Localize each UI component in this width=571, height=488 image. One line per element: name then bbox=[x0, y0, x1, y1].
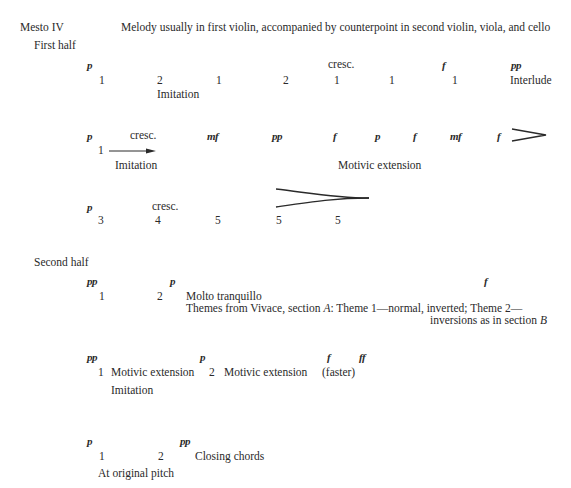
dynamic-marking: pp bbox=[87, 276, 97, 287]
technique-label-motivic-extension: Motivic extension bbox=[338, 160, 421, 172]
dynamic-marking: p bbox=[87, 60, 92, 71]
technique-label-imitation: Imitation bbox=[157, 89, 199, 101]
technique-label-imitation: Imitation bbox=[115, 160, 157, 172]
dynamic-marking: ff bbox=[359, 352, 365, 363]
tempo-marking: Molto tranquillo bbox=[186, 291, 262, 303]
section-reference: B bbox=[540, 314, 547, 326]
dynamic-marking: p bbox=[87, 131, 92, 142]
dynamic-marking: mf bbox=[207, 131, 218, 142]
dynamic-marking: f bbox=[327, 352, 330, 363]
movement-title: Mesto IV bbox=[20, 22, 64, 34]
dynamic-marking: pp bbox=[272, 131, 282, 142]
theme-number: 1 bbox=[98, 145, 104, 157]
dynamic-marking: pp bbox=[87, 352, 97, 363]
dynamic-marking: f bbox=[333, 131, 336, 142]
note-text: inversions as in section bbox=[430, 314, 540, 326]
tempo-note-faster: (faster) bbox=[322, 367, 355, 379]
themes-note-line2: inversions as in section B bbox=[430, 315, 547, 327]
theme-number: 2 bbox=[209, 367, 215, 379]
dynamic-marking: f bbox=[484, 276, 487, 287]
dynamic-marking: p bbox=[170, 276, 175, 287]
theme-number: 1 bbox=[216, 75, 222, 87]
section-label-closing-chords: Closing chords bbox=[195, 451, 264, 463]
dynamic-marking: f bbox=[497, 131, 500, 142]
technique-label-motivic-extension: Motivic extension bbox=[224, 367, 307, 379]
theme-number: 2 bbox=[158, 451, 164, 463]
theme-number: 3 bbox=[98, 215, 104, 227]
dynamic-marking: p bbox=[87, 202, 92, 213]
theme-number: 1 bbox=[98, 367, 104, 379]
dynamic-marking: cresc. bbox=[328, 59, 355, 71]
theme-number: 2 bbox=[157, 75, 163, 87]
section-label-first-half: First half bbox=[34, 40, 76, 52]
decrescendo-hairpin-icon bbox=[512, 128, 548, 142]
crescendo-arrow-icon bbox=[108, 147, 158, 155]
theme-number: 5 bbox=[335, 215, 341, 227]
dynamic-marking: p bbox=[200, 352, 205, 363]
theme-number: 4 bbox=[155, 215, 161, 227]
theme-number: 1 bbox=[452, 75, 458, 87]
technique-label-motivic-extension: Motivic extension bbox=[111, 367, 194, 379]
theme-number: 1 bbox=[99, 75, 105, 87]
dynamic-marking: pp bbox=[180, 436, 190, 447]
dynamic-marking: f bbox=[442, 60, 445, 71]
theme-number: 2 bbox=[157, 291, 163, 303]
theme-number: 5 bbox=[276, 215, 282, 227]
theme-number: 5 bbox=[215, 215, 221, 227]
theme-number: 1 bbox=[99, 451, 105, 463]
dynamic-marking: pp bbox=[511, 60, 521, 71]
dynamic-marking: f bbox=[413, 131, 416, 142]
dynamic-marking: mf bbox=[450, 131, 461, 142]
section-label-interlude: Interlude bbox=[510, 75, 552, 87]
note-text: Themes from Vivace, section bbox=[186, 302, 323, 314]
dynamic-marking: cresc. bbox=[152, 201, 179, 213]
dynamic-marking: cresc. bbox=[130, 130, 157, 142]
note-text: : Theme 1—normal, inverted; Theme 2— bbox=[330, 302, 522, 314]
section-label-second-half: Second half bbox=[34, 257, 89, 269]
theme-number: 1 bbox=[334, 75, 340, 87]
dynamic-marking: p bbox=[87, 436, 92, 447]
technique-label-original-pitch: At original pitch bbox=[98, 468, 174, 480]
dynamic-marking: p bbox=[375, 131, 380, 142]
technique-label-imitation: Imitation bbox=[111, 385, 153, 397]
themes-note-line1: Themes from Vivace, section A: Theme 1—n… bbox=[186, 303, 522, 315]
theme-number: 2 bbox=[283, 75, 289, 87]
theme-number: 1 bbox=[389, 75, 395, 87]
movement-description: Melody usually in first violin, accompan… bbox=[121, 22, 550, 34]
decrescendo-hairpin-icon bbox=[275, 188, 371, 208]
theme-number: 1 bbox=[99, 291, 105, 303]
